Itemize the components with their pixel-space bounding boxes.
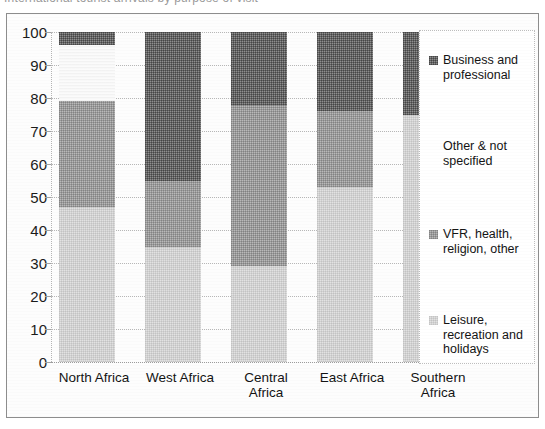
bar-segment-leisure xyxy=(231,266,287,362)
other-swatch-icon xyxy=(429,142,438,151)
bar-east-africa xyxy=(317,32,373,362)
legend-label: Other & not specified xyxy=(443,139,507,168)
x-axis-label: Southern Africa xyxy=(395,370,481,400)
legend-item[interactable]: VFR, health, religion, other xyxy=(429,227,519,256)
y-axis-tick xyxy=(45,263,51,264)
y-axis-tick xyxy=(45,164,51,165)
bar-segment-leisure xyxy=(59,207,115,362)
y-axis-tick xyxy=(45,98,51,99)
y-axis-tick xyxy=(45,65,51,66)
y-axis-tick xyxy=(45,329,51,330)
y-axis-tick xyxy=(45,362,51,363)
plot-inner xyxy=(51,32,481,362)
chart-legend: Business and professionalOther & not spe… xyxy=(419,30,535,364)
bar-central-africa xyxy=(231,32,287,362)
bar-segment-vfr xyxy=(145,181,201,247)
legend-label: VFR, health, religion, other xyxy=(443,227,519,256)
bar-segment-leisure xyxy=(145,247,201,363)
gridline xyxy=(51,362,481,363)
y-axis-tick xyxy=(45,32,51,33)
bar-segment-vfr xyxy=(317,111,373,187)
x-axis-label: West Africa xyxy=(137,370,223,385)
y-axis-tick xyxy=(45,296,51,297)
bar-segment-business xyxy=(317,32,373,111)
plot-area xyxy=(51,32,481,362)
bar-segment-business xyxy=(59,32,115,45)
legend-item[interactable]: Other & not specified xyxy=(429,139,507,168)
x-axis-labels: North AfricaWest AfricaCentral AfricaEas… xyxy=(51,370,481,414)
legend-item[interactable]: Leisure, recreation and holidays xyxy=(429,313,523,357)
chart-figure-frame: 0102030405060708090100 North AfricaWest … xyxy=(6,13,539,418)
chart-title-strip: International tourist arrivals by purpos… xyxy=(0,0,545,11)
leisure-swatch-icon xyxy=(429,316,438,325)
bar-segment-vfr xyxy=(231,105,287,267)
y-axis-tick-label: 100 xyxy=(22,25,47,40)
bar-west-africa xyxy=(145,32,201,362)
x-axis-label: East Africa xyxy=(309,370,395,385)
bar-north-africa xyxy=(59,32,115,362)
page-title: International tourist arrivals by purpos… xyxy=(4,0,258,5)
bar-segment-vfr xyxy=(59,101,115,207)
legend-item[interactable]: Business and professional xyxy=(429,53,518,82)
y-axis-tick xyxy=(45,230,51,231)
vfr-swatch-icon xyxy=(429,230,438,239)
bar-segment-business xyxy=(145,32,201,181)
business-swatch-icon xyxy=(429,56,438,65)
legend-label: Leisure, recreation and holidays xyxy=(443,313,523,357)
y-axis-tick xyxy=(45,131,51,132)
x-axis-label: North Africa xyxy=(51,370,137,385)
bar-segment-leisure xyxy=(317,187,373,362)
bar-segment-business xyxy=(231,32,287,105)
legend-label: Business and professional xyxy=(443,53,518,82)
y-axis-tick xyxy=(45,197,51,198)
x-axis-label: Central Africa xyxy=(223,370,309,400)
bar-segment-other xyxy=(59,45,115,101)
y-axis-labels: 0102030405060708090100 xyxy=(7,32,47,362)
